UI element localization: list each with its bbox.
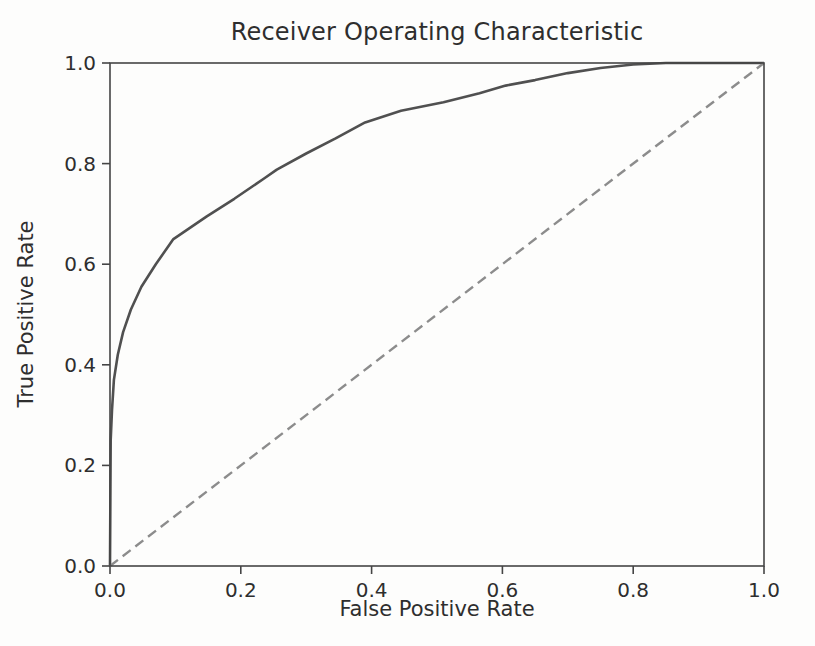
- x-axis-label: False Positive Rate: [110, 597, 764, 621]
- y-tick-label: 0.6: [64, 252, 96, 276]
- y-axis-label: True Positive Rate: [14, 220, 38, 407]
- y-tick-label: 0.0: [64, 554, 96, 578]
- plot-area: 0.00.20.40.60.81.00.00.20.40.60.81.0: [0, 0, 815, 646]
- roc-curve-line: [110, 63, 764, 566]
- chance-diagonal-line: [110, 63, 764, 566]
- y-tick-label: 0.4: [64, 353, 96, 377]
- y-tick-label: 0.2: [64, 453, 96, 477]
- y-tick-label: 0.8: [64, 152, 96, 176]
- roc-figure: Receiver Operating Characteristic 0.00.2…: [0, 0, 815, 646]
- plot-border: [110, 63, 764, 566]
- y-tick-label: 1.0: [64, 51, 96, 75]
